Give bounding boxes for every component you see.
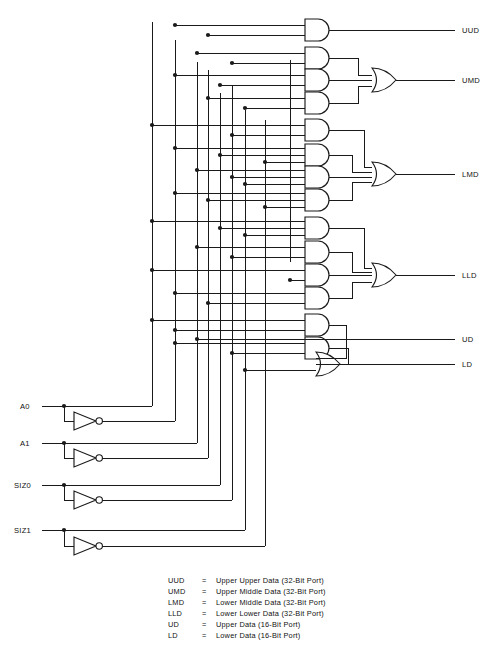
and-gate-9 — [305, 217, 329, 239]
legend-row: UD = Upper Data (16-Bit Port) — [168, 620, 300, 629]
output-labels: UUD UMD LMD LLD UD LD — [462, 26, 480, 369]
legend-equals: = — [202, 620, 206, 629]
vertical-bus-lines — [152, 22, 290, 546]
and-gate-4 — [305, 92, 329, 114]
legend-equals: = — [202, 631, 206, 640]
and-gate-12 — [305, 287, 329, 309]
input-label-siz0: SIZ0 — [14, 481, 31, 490]
legend-row: LLD = Lower Lower Data (32-Bit Port) — [168, 609, 324, 618]
output-label-ld: LD — [462, 360, 472, 369]
inverter-siz1 — [74, 537, 102, 555]
input-siz1: SIZ1 — [14, 526, 265, 555]
legend-description: Lower Middle Data (32-Bit Port) — [216, 598, 326, 607]
inverter-siz0 — [74, 491, 102, 509]
input-label-a1: A1 — [20, 439, 30, 448]
legend-row: LMD = Lower Middle Data (32-Bit Port) — [168, 598, 326, 607]
output-label-umd: UMD — [462, 76, 480, 85]
inverter-a1 — [74, 449, 102, 467]
and-gate-3 — [305, 69, 329, 91]
logic-diagram: A0 A1 SIZ0 — [0, 0, 498, 659]
output-label-lmd: LMD — [462, 170, 479, 179]
legend-key: LD — [168, 631, 178, 640]
and-gates — [305, 19, 329, 359]
legend-description: Upper Data (16-Bit Port) — [216, 620, 300, 629]
logic-diagram-canvas: A0 A1 SIZ0 — [0, 0, 498, 659]
input-a0: A0 — [20, 402, 175, 430]
legend-key: UMD — [168, 587, 185, 596]
output-label-ud: UD — [462, 335, 474, 344]
legend-equals: = — [202, 587, 206, 596]
and-gate-13 — [305, 314, 329, 336]
legend-description: Upper Upper Data (32-Bit Port) — [216, 576, 324, 585]
and-gate-5 — [305, 119, 329, 141]
and-gate-8 — [305, 189, 329, 211]
input-label-a0: A0 — [20, 402, 30, 411]
legend-key: LLD — [168, 609, 182, 618]
output-label-uud: UUD — [462, 26, 479, 35]
legend-description: Lower Lower Data (32-Bit Port) — [216, 609, 324, 618]
output-label-lld: LLD — [462, 271, 477, 280]
legend-row: UMD = Upper Middle Data (32-Bit Port) — [168, 587, 326, 596]
and-gate-7 — [305, 166, 329, 188]
and-gate-6 — [305, 144, 329, 166]
legend-key: LMD — [168, 598, 184, 607]
and-gate-10 — [305, 241, 329, 263]
legend-description: Upper Middle Data (32-Bit Port) — [216, 587, 326, 596]
legend-equals: = — [202, 598, 206, 607]
or-gate-lld — [372, 263, 396, 287]
legend: UUD = Upper Upper Data (32-Bit Port) UMD… — [168, 576, 326, 640]
and-gate-11 — [305, 264, 329, 286]
or-gate-lmd — [372, 162, 396, 186]
legend-key: UD — [168, 620, 179, 629]
legend-row: LD = Lower Data (16-Bit Port) — [168, 631, 300, 640]
and-gate-2 — [305, 47, 329, 69]
input-a1: A1 — [20, 439, 208, 467]
and-gate-1 — [305, 19, 329, 41]
or-gate-umd — [372, 68, 396, 92]
input-label-siz1: SIZ1 — [14, 526, 31, 535]
inverter-a0 — [74, 412, 102, 430]
legend-row: UUD = Upper Upper Data (32-Bit Port) — [168, 576, 324, 585]
legend-description: Lower Data (16-Bit Port) — [216, 631, 300, 640]
legend-equals: = — [202, 576, 206, 585]
input-siz0: SIZ0 — [14, 481, 232, 509]
legend-equals: = — [202, 609, 206, 618]
legend-key: UUD — [168, 576, 185, 585]
and-gate-input-wires — [150, 23, 305, 355]
input-section: A0 A1 SIZ0 — [14, 402, 265, 555]
